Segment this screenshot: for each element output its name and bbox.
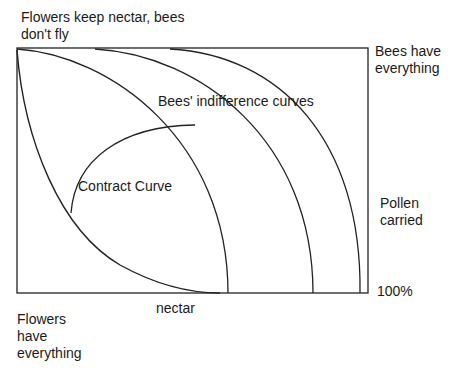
- bottom-left-label: Flowers have everything: [17, 311, 82, 362]
- top-right-line1: Bees have: [375, 43, 441, 60]
- top-right-line2: everything: [375, 60, 441, 77]
- indifference-curves-label: Bees' indifference curves: [158, 93, 314, 110]
- bees-indifference-curve-1: [17, 49, 228, 293]
- box-frame: [17, 48, 368, 293]
- nectar-label: nectar: [156, 300, 195, 317]
- top-right-label: Bees have everything: [375, 43, 441, 77]
- bees-indifference-curve-2: [95, 49, 313, 293]
- bottom-left-line3: everything: [17, 345, 82, 362]
- top-left-line1: Flowers keep nectar, bees: [21, 9, 184, 26]
- hundred-percent-label: 100%: [377, 283, 413, 300]
- bottom-left-line2: have: [17, 328, 82, 345]
- contract-curve-label: Contract Curve: [78, 178, 172, 195]
- top-left-label: Flowers keep nectar, bees don't fly: [21, 9, 184, 43]
- bottom-left-line1: Flowers: [17, 311, 82, 328]
- top-left-line2: don't fly: [21, 26, 184, 43]
- flowers-indifference-curve: [17, 50, 220, 293]
- pollen-line2: carried: [380, 212, 423, 229]
- pollen-line1: Pollen: [380, 195, 423, 212]
- pollen-label: Pollen carried: [380, 195, 423, 229]
